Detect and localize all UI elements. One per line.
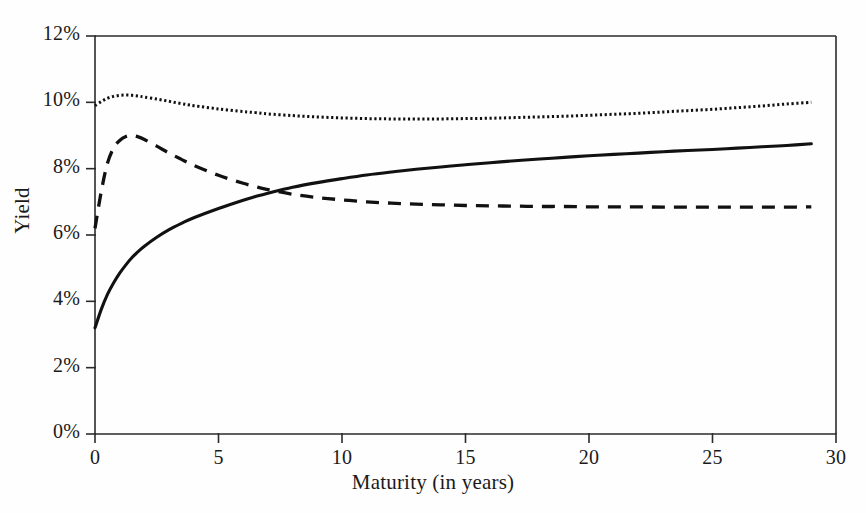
series-line-flat-inverted-yield-curve — [95, 95, 811, 119]
data-series-group — [95, 95, 811, 328]
series-line-rising-yield-curve — [95, 144, 811, 328]
axis-tick-marks — [86, 36, 836, 443]
yield-curve-chart: Yield Maturity (in years) 0%2%4%6%8%10%1… — [0, 0, 866, 513]
plot-area — [0, 0, 866, 513]
axis-spines — [95, 36, 836, 434]
